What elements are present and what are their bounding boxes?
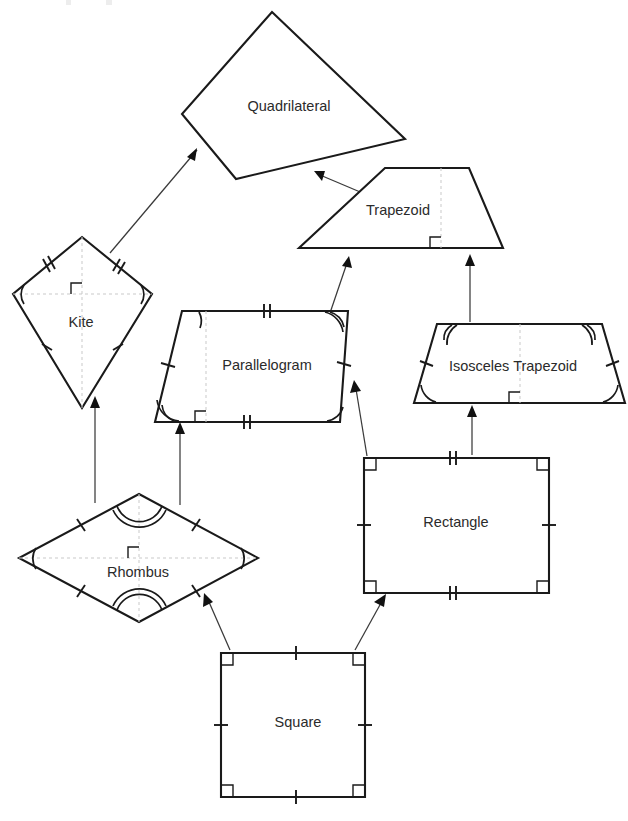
shape-rectangle[interactable]: Rectangle (357, 451, 556, 600)
shape-rhombus[interactable]: Rhombus (19, 494, 258, 622)
arrow-square-to-rectangle[interactable] (355, 594, 386, 650)
square-label: Square (275, 714, 322, 730)
arrow-kite-to-quadrilateral[interactable] (110, 148, 197, 253)
diagram-canvas: Quadrilateral Trapezoid (0, 0, 628, 821)
arrow-square-to-rhombus[interactable] (203, 593, 230, 650)
parallelogram-label: Parallelogram (222, 357, 311, 373)
shape-kite[interactable]: Kite (13, 237, 152, 408)
isosceles-trapezoid-label: Isosceles Trapezoid (449, 358, 577, 374)
cropped-top-text (66, 0, 112, 5)
kite-label: Kite (69, 314, 94, 330)
shape-quadrilateral[interactable]: Quadrilateral (182, 12, 405, 179)
rhombus-label: Rhombus (107, 564, 169, 580)
arrow-rectangle-to-parallelogram[interactable] (350, 380, 367, 456)
arrow-parallelogram-to-trapezoid[interactable] (330, 256, 352, 313)
arrow-rhombus-to-kite[interactable] (90, 396, 100, 503)
rectangle-label: Rectangle (423, 514, 488, 530)
arrow-rectangle-to-isosceles-trapezoid[interactable] (467, 405, 477, 455)
shape-square[interactable]: Square (214, 646, 372, 804)
quadrilateral-hierarchy-svg: Quadrilateral Trapezoid (0, 0, 628, 821)
shape-trapezoid[interactable]: Trapezoid (299, 168, 503, 248)
quadrilateral-label: Quadrilateral (247, 98, 330, 114)
quadrilateral-outline (182, 12, 405, 179)
shape-isosceles-trapezoid[interactable]: Isosceles Trapezoid (414, 324, 625, 403)
arrow-rhombus-to-parallelogram[interactable] (175, 422, 185, 505)
arrow-isosceles-trapezoid-to-trapezoid[interactable] (465, 254, 475, 322)
trapezoid-label: Trapezoid (366, 202, 430, 218)
shape-parallelogram[interactable]: Parallelogram (155, 304, 351, 429)
